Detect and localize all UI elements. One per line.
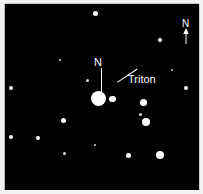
frame-edge-right [199,4,200,190]
north-arrow-icon [5,4,199,190]
star-field: N Triton N [5,4,199,190]
astronomy-figure: N Triton N [0,0,203,194]
